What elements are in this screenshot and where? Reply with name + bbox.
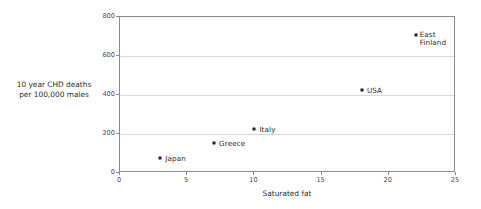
data-point-label: Italy [259,126,275,134]
x-tick-label: 20 [376,177,400,184]
x-tick-label: 10 [241,177,265,184]
gridline [120,95,454,96]
x-tick-mark [455,172,456,175]
data-point [253,128,256,131]
chart-figure: 10 year CHD deaths per 100,000 males 020… [0,0,481,209]
plot-area: JapanGreeceItalyUSAEast Finland [119,16,455,172]
x-axis-tick-labels: 0510152025 [119,177,455,186]
gridline [120,56,454,57]
x-tick-mark [186,172,187,175]
y-tick-label: 800 [102,13,115,20]
data-point [414,33,417,36]
gridline [120,134,454,135]
data-point-label: Japan [165,155,186,163]
data-point-label: USA [367,87,382,95]
data-point [159,157,162,160]
x-tick-mark [119,172,120,175]
x-tick-label: 5 [174,177,198,184]
x-tick-label: 15 [309,177,333,184]
y-tick-label: 600 [102,52,115,59]
data-point-label: Greece [219,140,245,148]
data-point [213,141,216,144]
x-tick-mark [388,172,389,175]
y-axis-tick-labels: 0200400600800 [96,16,115,172]
x-tick-mark [321,172,322,175]
y-tick-label: 0 [111,169,115,176]
data-point-label: East Finland [420,31,446,48]
data-point [360,89,363,92]
x-tick-label: 0 [107,177,131,184]
y-tick-label: 200 [102,130,115,137]
x-tick-mark [253,172,254,175]
x-tick-label: 25 [443,177,467,184]
x-axis-title: Saturated fat [119,189,455,198]
y-tick-label: 400 [102,91,115,98]
y-axis-title: 10 year CHD deaths per 100,000 males [12,80,96,99]
